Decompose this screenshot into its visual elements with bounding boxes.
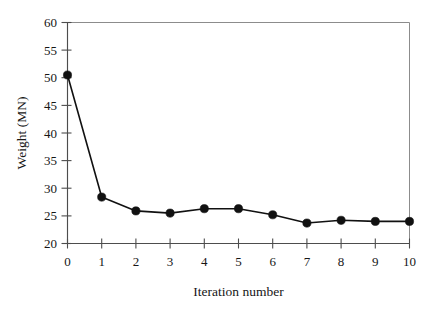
y-axis-title: Weight (MN) xyxy=(14,97,29,170)
data-point xyxy=(371,217,379,225)
y-tick-label-5: 45 xyxy=(44,98,57,113)
y-tick-label-1: 25 xyxy=(44,208,57,223)
data-point xyxy=(132,207,140,215)
y-tick-label-7: 55 xyxy=(44,43,57,58)
line-chart-canvas: 20 25 30 35 40 45 50 55 60 0 1 2 xyxy=(0,0,430,319)
chart-figure: 20 25 30 35 40 45 50 55 60 0 1 2 xyxy=(0,0,430,319)
data-point xyxy=(303,219,311,227)
data-point xyxy=(269,211,277,219)
y-axis-tick-labels: 20 25 30 35 40 45 50 55 60 xyxy=(44,15,57,251)
data-point xyxy=(405,217,413,225)
x-tick-label-7: 7 xyxy=(304,254,311,269)
data-point xyxy=(98,193,106,201)
x-tick-label-10: 10 xyxy=(403,254,416,269)
x-tick-label-2: 2 xyxy=(133,254,140,269)
y-tick-label-3: 35 xyxy=(44,153,57,168)
x-tick-label-0: 0 xyxy=(64,254,71,269)
data-point xyxy=(166,209,174,217)
y-tick-label-6: 50 xyxy=(44,70,57,85)
x-tick-label-6: 6 xyxy=(269,254,276,269)
data-point xyxy=(200,205,208,213)
x-tick-label-5: 5 xyxy=(235,254,242,269)
chart-background xyxy=(0,0,430,319)
data-point xyxy=(337,216,345,224)
data-point xyxy=(63,71,71,79)
data-point xyxy=(234,205,242,213)
x-tick-label-8: 8 xyxy=(338,254,345,269)
y-tick-label-4: 40 xyxy=(44,126,57,141)
x-axis-title: Iteration number xyxy=(193,284,284,299)
y-tick-label-0: 20 xyxy=(44,236,57,251)
y-tick-label-8: 60 xyxy=(44,15,57,30)
x-tick-label-9: 9 xyxy=(372,254,379,269)
y-tick-label-2: 30 xyxy=(44,181,57,196)
x-tick-label-1: 1 xyxy=(98,254,105,269)
x-tick-label-4: 4 xyxy=(201,254,208,269)
x-tick-label-3: 3 xyxy=(167,254,174,269)
